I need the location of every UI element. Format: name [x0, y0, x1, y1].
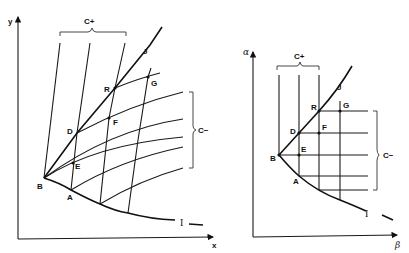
point-g-dot	[338, 109, 341, 112]
c-minus-line-5	[77, 92, 183, 133]
point-b-dot	[277, 153, 280, 156]
c-minus-line-3	[100, 168, 183, 204]
c-plus-brace	[60, 28, 126, 36]
point-r-dot	[113, 86, 116, 89]
point-r-dot	[317, 109, 320, 112]
c-plus-label: C+	[84, 17, 95, 26]
beta-axis	[253, 235, 397, 237]
curve-i-label: I	[365, 208, 368, 219]
c-minus-line-1	[44, 137, 183, 178]
beta-axis-label: β	[394, 240, 400, 250]
curve-j-label: J	[143, 47, 147, 56]
point-f-dot	[107, 116, 110, 119]
point-f-dot	[317, 131, 320, 134]
point-b-label: B	[270, 154, 276, 163]
c-plus-brace	[277, 62, 319, 70]
point-e-label: E	[75, 162, 81, 171]
c-plus-line-4	[128, 68, 151, 213]
point-b-label: B	[37, 182, 43, 191]
point-d-label: D	[67, 127, 73, 136]
point-g-label: G	[151, 79, 157, 88]
point-d-dot	[297, 131, 300, 134]
y-axis-label: y	[8, 17, 13, 26]
alpha-axis-label: α	[243, 47, 249, 57]
x-axis	[18, 237, 213, 239]
c-minus-line-2	[71, 147, 183, 190]
c-minus-brace	[373, 111, 379, 190]
point-r-label: R	[104, 85, 110, 94]
curve-j-label: J	[337, 83, 341, 92]
c-plus-line-2	[71, 43, 90, 190]
c-minus-label: C−	[383, 151, 394, 160]
right-diagram: α β B A D E F R G J I	[243, 47, 400, 250]
c-plus-line-1	[44, 43, 60, 178]
curve-i-label: I	[180, 217, 183, 228]
point-f-label: F	[322, 123, 327, 132]
c-minus-label: C−	[198, 126, 209, 135]
c-minus-brace	[189, 92, 196, 168]
point-f-label: F	[113, 118, 118, 127]
point-a-label: A	[67, 193, 73, 202]
point-d-label: D	[290, 127, 296, 136]
curve-i-dash	[382, 215, 393, 220]
point-r-label: R	[311, 103, 317, 112]
point-g-label: G	[343, 101, 349, 110]
curve-i-dash	[189, 224, 203, 225]
c-plus-label: C+	[294, 52, 305, 61]
point-e-label: E	[301, 145, 307, 154]
x-axis-label: x	[212, 241, 217, 250]
point-a-label: A	[293, 177, 299, 186]
point-g-dot	[146, 75, 149, 78]
characteristics-figure: y x B A D E F R G J I C+	[0, 0, 409, 253]
left-diagram: y x B A D E F R G J I C+	[8, 17, 217, 250]
